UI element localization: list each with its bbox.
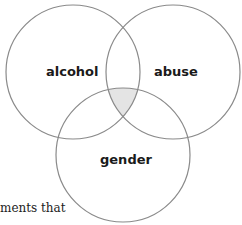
gender-label: gender — [100, 152, 153, 167]
venn-diagram: alcohol abuse gender — [0, 0, 242, 225]
abuse-label: abuse — [154, 64, 198, 79]
caption-text: ments that — [0, 201, 66, 215]
alcohol-label: alcohol — [46, 64, 99, 79]
